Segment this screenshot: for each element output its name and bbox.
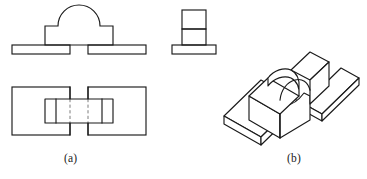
side-block-upper	[182, 10, 206, 29]
caption-a: (a)	[64, 152, 77, 164]
top-center-block	[45, 99, 113, 123]
figure-canvas: (a) (b)	[0, 0, 367, 179]
caption-b: (b)	[287, 152, 301, 164]
side-base-plate	[172, 45, 216, 54]
isometric-view	[218, 60, 367, 155]
top-view	[0, 0, 170, 145]
side-block-lower	[182, 29, 206, 45]
